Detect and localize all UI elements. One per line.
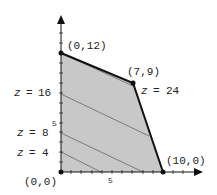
svg-text:4: 4 <box>42 147 49 159</box>
svg-text:24: 24 <box>166 85 180 97</box>
svg-text:z: z <box>17 127 24 139</box>
svg-text:z: z <box>141 85 148 97</box>
svg-text:z: z <box>14 87 21 99</box>
level-label-z16: z = 16 <box>14 87 51 99</box>
vertex-label-7-9: (7,9) <box>127 66 160 78</box>
vertex-10-0 <box>161 170 166 175</box>
vertex-label-0-0: (0,0) <box>24 176 57 188</box>
vertex-7-9 <box>131 81 136 86</box>
svg-text:=: = <box>26 87 33 99</box>
y-tick-label: 5 <box>52 119 57 128</box>
level-label-z4: z = 4 <box>17 147 49 159</box>
svg-text:=: = <box>153 85 160 97</box>
vertex-label-0-12: (0,12) <box>67 40 107 52</box>
svg-text:z: z <box>17 147 24 159</box>
vertex-label-10-0: (10,0) <box>166 155 206 167</box>
feasible-region-diagram: 5 5 (0,12) (7,9) (10,0) (0,0) z = 24 z =… <box>0 0 217 195</box>
x-tick-label: 5 <box>108 176 113 185</box>
level-label-z24: z = 24 <box>141 85 180 97</box>
svg-text:8: 8 <box>42 127 49 139</box>
y-axis-arrow-icon <box>57 15 65 24</box>
vertex-0-0 <box>59 170 64 175</box>
x-axis-arrow-icon <box>194 168 203 176</box>
svg-text:16: 16 <box>38 87 51 99</box>
svg-text:=: = <box>29 147 36 159</box>
vertex-0-12 <box>59 51 64 56</box>
svg-text:=: = <box>29 127 36 139</box>
level-label-z8: z = 8 <box>17 127 49 139</box>
